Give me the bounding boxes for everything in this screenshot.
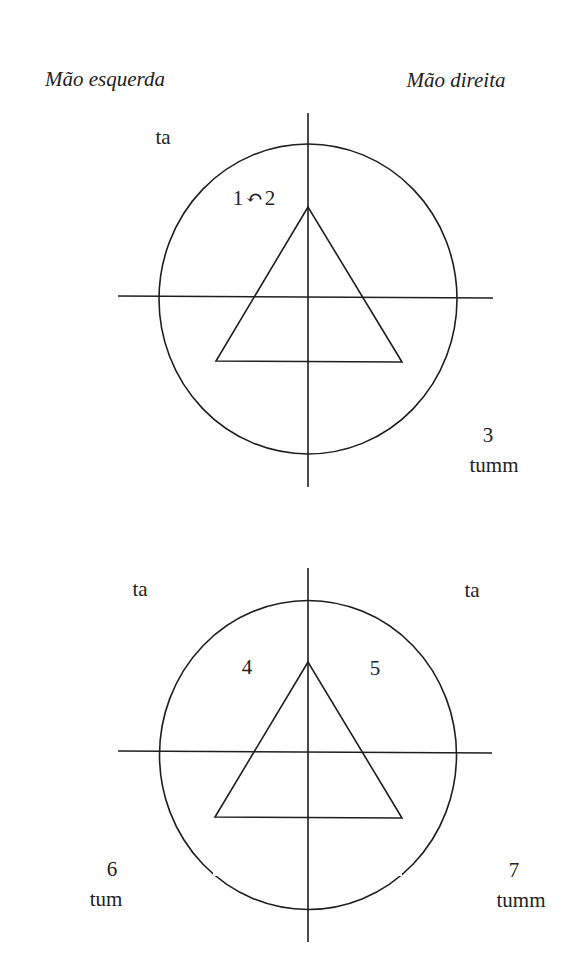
bottom-diagram: [118, 568, 492, 942]
beat-4: 4: [242, 657, 253, 678]
anticlockwise-arrow-icon: ↶: [245, 186, 263, 210]
top-beats-label: 1↶2: [233, 188, 276, 209]
top-upper-left-syllable: ta: [155, 127, 170, 148]
beat-3: 3: [457, 420, 518, 450]
syllable-tumm: tumm: [496, 885, 545, 915]
rhythm-diagram-canvas: Mão esquerda Mão direita ta 1↶2 3 tumm t…: [0, 0, 575, 966]
beat-5: 5: [370, 658, 381, 679]
beat-7: 7: [482, 855, 545, 885]
bottom-lower-right-label: 7 tumm: [496, 855, 545, 915]
bottom-upper-left-syllable: ta: [132, 579, 147, 600]
circle-gap-left: [213, 872, 217, 876]
top-triangle: [216, 207, 402, 362]
circle-gap-right: [398, 872, 402, 876]
top-horizontal-axis: [118, 296, 493, 298]
beat-2: 2: [265, 186, 276, 210]
syllable-tum: tum: [90, 884, 123, 914]
syllable-tumm: tumm: [469, 450, 518, 480]
bottom-horizontal-axis: [118, 751, 492, 753]
beat-6: 6: [102, 854, 123, 884]
diagram-shapes: [0, 0, 575, 966]
bottom-lower-left-label: 6 tum: [90, 854, 123, 914]
top-diagram: [118, 113, 493, 487]
top-lower-right-label: 3 tumm: [469, 420, 518, 480]
beat-1: 1: [233, 186, 244, 210]
bottom-upper-right-syllable: ta: [464, 580, 479, 601]
